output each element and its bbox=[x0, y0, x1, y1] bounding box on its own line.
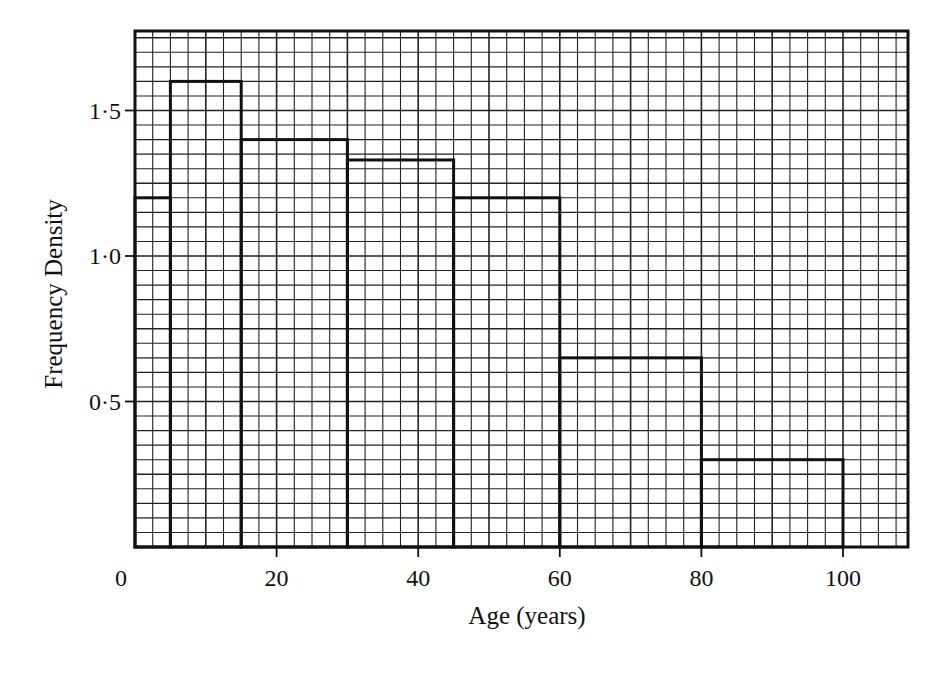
x-tick-label: 80 bbox=[689, 565, 713, 591]
y-axis-ticks: 0·51·01·5 bbox=[89, 98, 135, 415]
x-tick-label: 40 bbox=[406, 565, 430, 591]
x-tick-label: 60 bbox=[548, 565, 572, 591]
plot-frame bbox=[135, 31, 908, 547]
x-tick-label: 100 bbox=[825, 565, 861, 591]
x-tick-label: 0 bbox=[115, 565, 127, 591]
graph-paper-grid bbox=[135, 31, 908, 547]
x-tick-label: 20 bbox=[265, 565, 289, 591]
y-tick-label: 0·5 bbox=[89, 389, 121, 415]
y-tick-label: 1·5 bbox=[89, 98, 121, 124]
y-axis-title: Frequency Density bbox=[40, 199, 67, 389]
x-axis-title: Age (years) bbox=[468, 602, 585, 630]
histogram-chart: 020406080100 0·51·01·5 Age (years) Frequ… bbox=[0, 0, 946, 678]
y-tick-label: 1·0 bbox=[89, 243, 121, 269]
x-axis-ticks: 020406080100 bbox=[115, 547, 861, 591]
